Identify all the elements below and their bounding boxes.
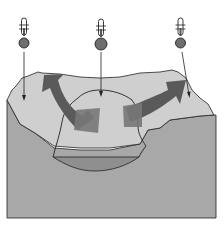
thermometer-icon: [19, 18, 29, 48]
thermometer-icon: [95, 19, 107, 50]
thermometer-icon: [176, 18, 186, 48]
terrain-airflow-diagram: [0, 0, 224, 229]
